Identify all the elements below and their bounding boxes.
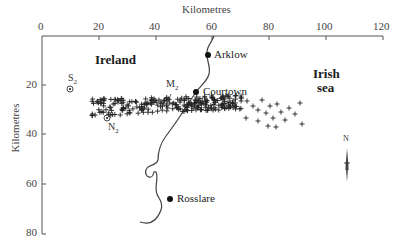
town-rosslare: Rosslare: [177, 192, 215, 204]
courtown-marker: [193, 89, 199, 95]
town-courtown: Courtown: [203, 85, 247, 97]
north-label: N: [343, 134, 349, 143]
region-irish-sea-line2: sea: [317, 80, 334, 96]
map-canvas: [0, 0, 402, 247]
north-arrow-icon: [344, 148, 350, 182]
station-n2: N2: [108, 121, 119, 135]
rosslare-marker: [167, 196, 173, 202]
region-ireland: Ireland: [95, 52, 136, 68]
station-s2: S2: [68, 72, 77, 86]
arklow-marker: [205, 52, 211, 58]
town-arklow: Arklow: [214, 48, 248, 60]
station-m2: M2: [166, 78, 178, 92]
scatter-points: [90, 93, 305, 129]
